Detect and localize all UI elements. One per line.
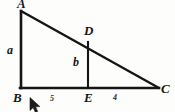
side-label-a: a — [7, 44, 13, 56]
vertex-label-b: B — [13, 91, 22, 104]
side-label-b: b — [73, 56, 79, 68]
vertex-label-c: C — [161, 82, 170, 95]
measure-label-ec: 4 — [113, 94, 117, 102]
mouse-pointer-arrow-icon — [29, 97, 42, 112]
measure-label-be: 5 — [50, 95, 54, 103]
geometry-figure: A B C D E a b 5 4 — [0, 0, 175, 112]
vertex-label-e: E — [84, 91, 93, 104]
vertex-label-d: D — [84, 24, 93, 37]
vertex-label-a: A — [17, 0, 26, 10]
